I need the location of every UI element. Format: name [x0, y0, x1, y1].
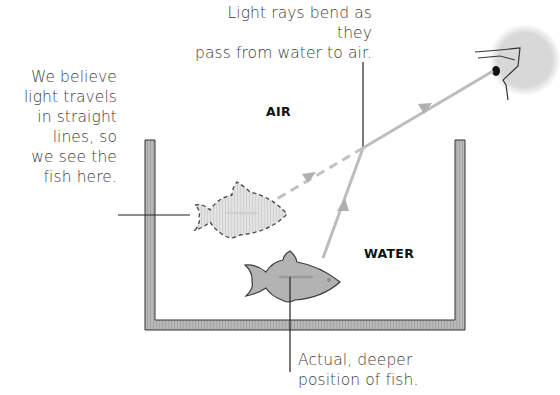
bottom-callout-line-1: Actual, deeper — [298, 350, 498, 370]
left-callout-line-1: We believe — [0, 67, 117, 87]
light-ray-solid — [323, 71, 493, 258]
light-ray-dashed — [275, 148, 363, 200]
air-label: AIR — [266, 104, 291, 119]
bottom-callout-text: Actual, deeper position of fish. — [298, 350, 498, 390]
left-callout-line-4: lines, so — [0, 127, 117, 147]
water-label: WATER — [364, 246, 414, 261]
left-callout-line-5: we see the — [0, 147, 117, 167]
top-callout-text: Light rays bend as they pass from water … — [190, 3, 372, 63]
left-callout-line-2: light travels — [0, 87, 117, 107]
apparent-fish-dashed-outline — [195, 182, 287, 238]
actual-fish — [245, 251, 340, 302]
top-callout-line-2: pass from water to air. — [190, 43, 372, 63]
bottom-callout-line-2: position of fish. — [298, 370, 498, 390]
left-callout-line-6: fish here. — [0, 167, 117, 187]
observer-eye-icon — [475, 24, 560, 100]
top-callout-line-1: Light rays bend as they — [190, 3, 372, 43]
left-callout-text: We believe light travels in straight lin… — [0, 67, 117, 187]
left-callout-line-3: in straight — [0, 107, 117, 127]
water-tank — [145, 140, 465, 330]
